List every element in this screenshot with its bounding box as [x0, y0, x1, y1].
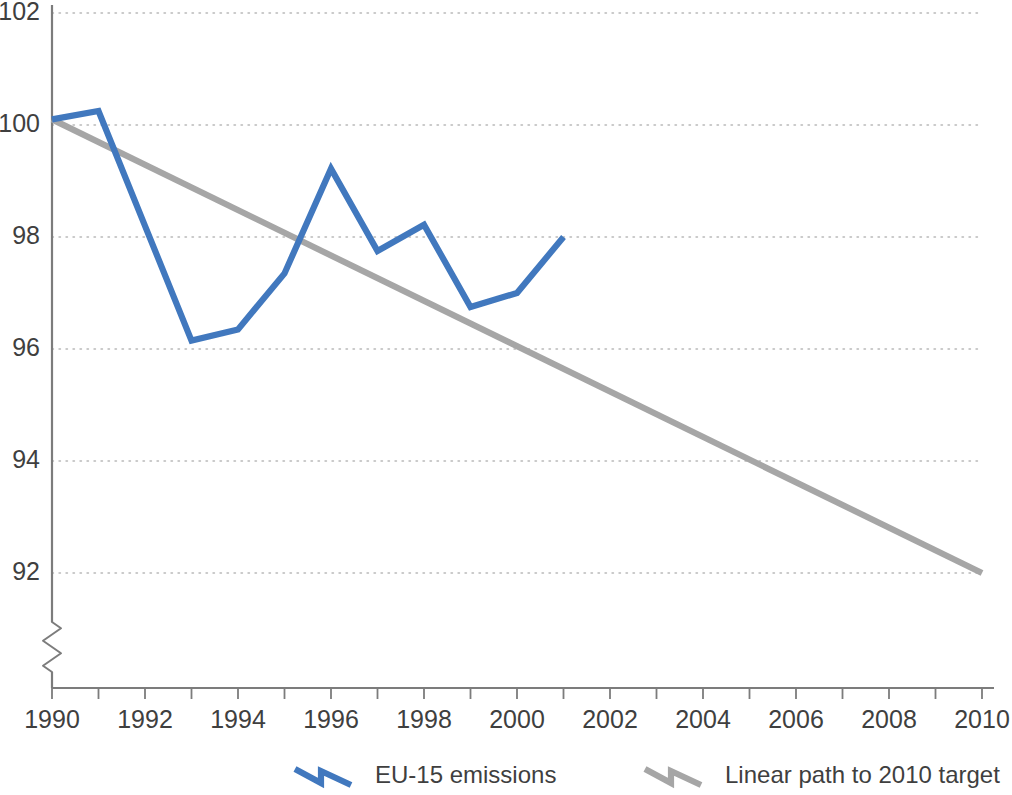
x-tick-label-2010: 2010	[954, 705, 1010, 733]
chart-container: 92949698100102 1990199219941996199820002…	[0, 0, 1012, 795]
y-tick-labels: 92949698100102	[0, 0, 40, 585]
y-tick-label-94: 94	[12, 445, 40, 473]
x-tick-label-1992: 1992	[117, 705, 173, 733]
y-tick-label-102: 102	[0, 0, 40, 25]
y-tick-label-92: 92	[12, 557, 40, 585]
legend-label-1: Linear path to 2010 target	[725, 761, 1000, 788]
x-tick-label-1990: 1990	[24, 705, 80, 733]
legend-label-0: EU-15 emissions	[375, 761, 556, 788]
x-tick-label-1996: 1996	[303, 705, 359, 733]
y-tick-label-98: 98	[12, 221, 40, 249]
x-tick-label-1998: 1998	[396, 705, 452, 733]
series-group	[52, 111, 982, 573]
chart-legend: EU-15 emissionsLinear path to 2010 targe…	[295, 761, 1000, 788]
x-tick-label-2004: 2004	[675, 705, 731, 733]
line-chart: 92949698100102 1990199219941996199820002…	[0, 0, 1012, 795]
y-axis-break-icon	[43, 622, 61, 672]
y-tick-label-96: 96	[12, 333, 40, 361]
series-line-linear-path	[52, 119, 982, 573]
x-tick-label-2008: 2008	[861, 705, 917, 733]
x-tick-label-1994: 1994	[210, 705, 266, 733]
x-tick-labels: 1990199219941996199820002002200420062008…	[24, 705, 1010, 733]
legend-marker-0	[295, 769, 351, 785]
x-tick-label-2000: 2000	[489, 705, 545, 733]
y-axis-group: 92949698100102	[0, 0, 61, 688]
legend-marker-1	[645, 769, 701, 785]
x-axis-ticks	[52, 688, 982, 699]
y-tick-label-100: 100	[0, 109, 40, 137]
x-tick-label-2006: 2006	[768, 705, 824, 733]
x-axis-group: 1990199219941996199820002002200420062008…	[24, 688, 1010, 733]
series-line-eu15-emissions	[52, 111, 564, 341]
x-tick-label-2002: 2002	[582, 705, 638, 733]
